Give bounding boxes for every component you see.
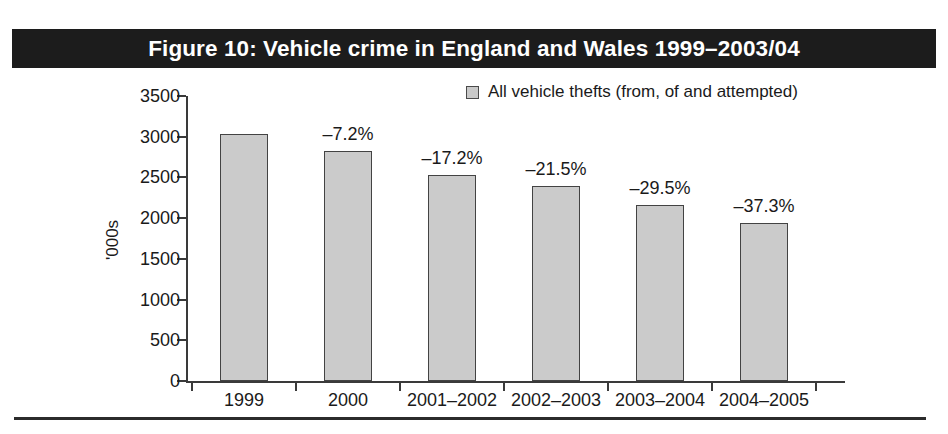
x-axis-tick	[503, 381, 505, 391]
y-axis-tick-label: 2500	[140, 167, 180, 188]
y-axis-tick-label: 1000	[140, 289, 180, 310]
x-axis-tick	[295, 381, 297, 391]
y-axis-tick-label: 1500	[140, 248, 180, 269]
chart-plot-area: 0500100015002000250030003500 –7.2%–17.2%…	[186, 96, 845, 381]
bar-value-label: –21.5%	[525, 159, 586, 180]
x-axis-category-label: 2002–2003	[511, 390, 601, 411]
x-axis-line	[186, 381, 845, 383]
x-axis-category-label: 2001–2002	[407, 390, 497, 411]
y-axis-tick-label: 2000	[140, 208, 180, 229]
bar-value-label: –29.5%	[629, 178, 690, 199]
x-axis-tick	[399, 381, 401, 391]
y-axis-tick-label: 0	[170, 371, 180, 392]
bottom-divider	[14, 417, 926, 420]
x-axis-tick	[607, 381, 609, 391]
bar	[740, 223, 788, 381]
bar	[324, 151, 372, 381]
y-axis-tick-label: 500	[150, 330, 180, 351]
x-axis-category-label: 2004–2005	[719, 390, 809, 411]
y-axis-line	[186, 96, 188, 381]
bar	[220, 134, 268, 381]
x-axis-tick	[191, 381, 193, 391]
x-axis-tick	[815, 381, 817, 391]
page-title: Figure 10: Vehicle crime in England and …	[12, 36, 936, 62]
x-axis-tick	[711, 381, 713, 391]
bar-value-label: –7.2%	[322, 124, 373, 145]
bar-value-label: –37.3%	[733, 196, 794, 217]
bar	[636, 205, 684, 381]
x-axis-category-label: 2000	[328, 390, 368, 411]
bar	[532, 186, 580, 381]
y-axis-title: '000s	[103, 210, 131, 270]
bar-value-label: –17.2%	[421, 148, 482, 169]
y-axis-tick-label: 3000	[140, 126, 180, 147]
x-axis-category-label: 2003–2004	[615, 390, 705, 411]
x-axis-category-label: 1999	[224, 390, 264, 411]
figure-title-bar: Figure 10: Vehicle crime in England and …	[12, 29, 936, 68]
bar	[428, 175, 476, 381]
y-axis-tick-label: 3500	[140, 86, 180, 107]
